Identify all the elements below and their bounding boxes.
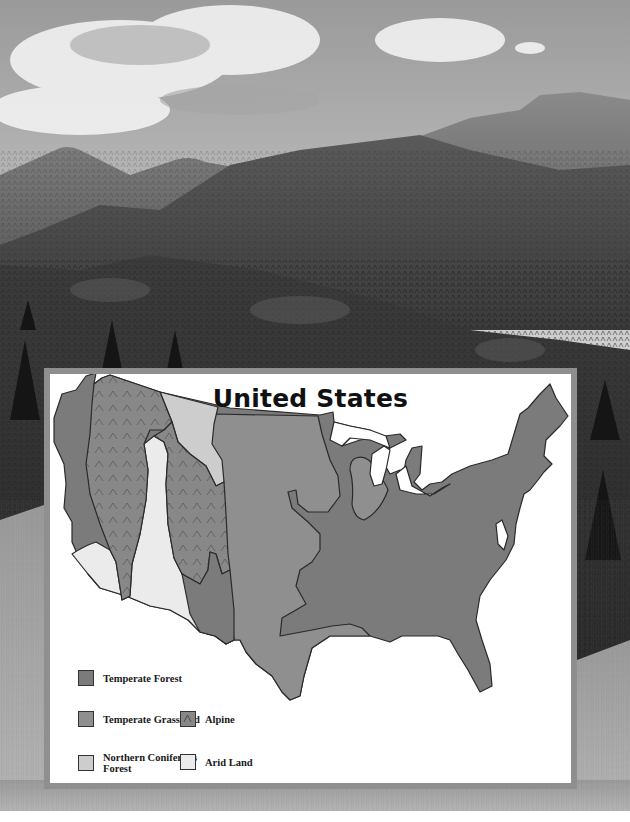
arid-land-swatch xyxy=(180,754,196,770)
legend-label: Alpine xyxy=(205,714,235,725)
map-frame: United States Temperate Forest Temperate… xyxy=(44,368,577,789)
legend-label: Temperate Forest xyxy=(103,673,182,684)
northern-coniferous-forest-swatch xyxy=(78,755,94,771)
temperate-forest-swatch xyxy=(78,670,94,686)
legend-item-alpine: Alpine xyxy=(180,711,235,727)
temperate-grassland-swatch xyxy=(78,711,94,727)
biome-map: United States Temperate Forest Temperate… xyxy=(50,374,571,783)
legend-label-line2: Forest xyxy=(103,763,131,774)
legend-item-temperate-forest: Temperate Forest xyxy=(78,670,182,686)
map-title: United States xyxy=(50,384,571,413)
legend-item-arid-land: Arid Land xyxy=(180,754,253,770)
legend-label: Arid Land xyxy=(205,757,253,768)
alpine-caret-icon xyxy=(181,712,194,725)
alpine-swatch xyxy=(180,711,196,727)
